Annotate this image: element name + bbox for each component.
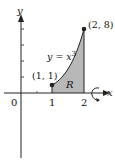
- x-tick-label-1: 1: [49, 97, 55, 108]
- rotation-arrow-icon: [92, 88, 99, 100]
- curve-equation: y = x3: [46, 50, 76, 62]
- x-tick-label-2: 2: [81, 97, 87, 108]
- point-label-2-8: (2, 8): [88, 19, 114, 30]
- y-axis-label: y: [16, 5, 23, 16]
- point-1-1: [50, 83, 55, 88]
- curve-equation-exponent: 3: [72, 50, 76, 58]
- curve-equation-base: y = x: [46, 51, 72, 62]
- rotation-arrowhead-icon: [96, 98, 100, 102]
- point-2-8: [82, 27, 87, 32]
- region-diagram: y x 0 1 2 (2, 8) (1, 1) y = x3 R: [0, 0, 115, 163]
- region-label: R: [65, 79, 74, 90]
- x-axis-label: x: [107, 87, 113, 98]
- point-label-1-1: (1, 1): [32, 70, 58, 81]
- origin-label: 0: [11, 97, 17, 108]
